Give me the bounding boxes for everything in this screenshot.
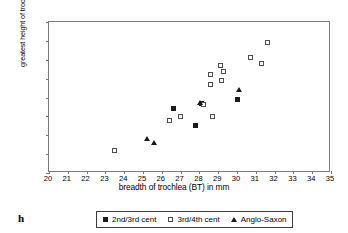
legend-entry: Anglo-Saxon bbox=[231, 215, 287, 224]
x-tick-label: 23 bbox=[94, 175, 114, 183]
data-point bbox=[210, 114, 215, 119]
y-tick-mark bbox=[46, 154, 49, 155]
data-point bbox=[193, 123, 198, 128]
x-tick-label: 30 bbox=[226, 175, 246, 183]
x-tick-label: 26 bbox=[151, 175, 171, 183]
legend-marker-icon bbox=[231, 217, 237, 223]
data-point bbox=[221, 69, 226, 74]
legend-label: 2nd/3rd cent bbox=[112, 215, 156, 224]
chart-legend: 2nd/3rd cent3rd/4th centAnglo-Saxon bbox=[96, 211, 293, 228]
y-tick-mark bbox=[46, 135, 49, 136]
data-point bbox=[197, 100, 203, 105]
y-tick-mark bbox=[46, 22, 49, 23]
x-tick-label: 20 bbox=[38, 175, 58, 183]
x-tick-label: 31 bbox=[245, 175, 265, 183]
x-tick-label: 33 bbox=[282, 175, 302, 183]
data-point bbox=[167, 118, 172, 123]
legend-marker-icon bbox=[167, 217, 173, 223]
data-point bbox=[151, 140, 157, 145]
x-tick-label: 21 bbox=[57, 175, 77, 183]
legend-label: Anglo-Saxon bbox=[241, 215, 287, 224]
x-tick-label: 25 bbox=[132, 175, 152, 183]
y-axis-title: greatest height of trochlea (GHT) in m bbox=[18, 0, 27, 84]
x-axis-title: breadth of trochlea (BT) in mm bbox=[0, 182, 348, 192]
data-point bbox=[236, 87, 242, 92]
x-tick-label: 29 bbox=[207, 175, 227, 183]
data-point bbox=[144, 136, 150, 141]
data-point bbox=[248, 55, 253, 60]
y-tick-mark bbox=[46, 60, 49, 61]
x-tick-label: 27 bbox=[170, 175, 190, 183]
data-point bbox=[259, 61, 264, 66]
data-point bbox=[208, 82, 213, 87]
scatter-plot-figure: greatest height of trochlea (GHT) in m 1… bbox=[0, 0, 348, 233]
y-tick-mark bbox=[46, 41, 49, 42]
x-tick-label: 32 bbox=[264, 175, 284, 183]
y-tick-mark bbox=[46, 98, 49, 99]
data-point bbox=[218, 63, 223, 68]
data-point bbox=[171, 106, 176, 111]
data-point bbox=[235, 97, 240, 102]
plot-area: 141516171819202122 bbox=[48, 21, 330, 172]
figure-letter: h bbox=[18, 212, 24, 224]
legend-label: 3rd/4th cent bbox=[177, 215, 219, 224]
data-point bbox=[265, 40, 270, 45]
data-point bbox=[208, 72, 213, 77]
data-point bbox=[219, 78, 224, 83]
x-tick-label: 28 bbox=[188, 175, 208, 183]
x-tick-label: 24 bbox=[113, 175, 133, 183]
data-point bbox=[178, 114, 183, 119]
legend-marker-icon bbox=[102, 217, 108, 223]
legend-entry: 3rd/4th cent bbox=[167, 215, 219, 224]
x-tick-label: 34 bbox=[301, 175, 321, 183]
y-tick-mark bbox=[46, 116, 49, 117]
data-point bbox=[112, 148, 117, 153]
x-tick-label: 22 bbox=[76, 175, 96, 183]
y-tick-mark bbox=[46, 79, 49, 80]
legend-entry: 2nd/3rd cent bbox=[102, 215, 156, 224]
x-tick-label: 35 bbox=[320, 175, 340, 183]
